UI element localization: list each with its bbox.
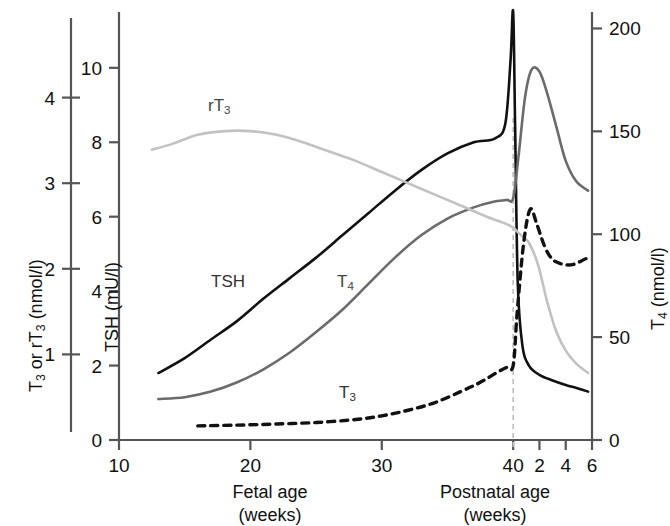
series-label-rt3: rT3: [208, 96, 230, 116]
ticklabel-x-fetal: 10: [108, 455, 129, 476]
ticklabel-right: 200: [609, 18, 641, 39]
axis-title-t3-rt3: T3 or rT3 (nmol/l): [26, 259, 48, 392]
series-label-t3: T3: [339, 383, 356, 403]
ticklabel-left-inner: 4: [91, 281, 102, 302]
series-label-t4: T4: [337, 272, 354, 292]
ticklabel-x-postnatal: 2: [534, 455, 545, 476]
ticklabel-left-inner: 8: [91, 132, 102, 153]
ticklabel-right: 100: [609, 224, 641, 245]
ticklabel-left-inner: 6: [91, 207, 102, 228]
ticklabel-left-outer: 4: [44, 88, 55, 109]
ticklabel-x-postnatal: 4: [560, 455, 571, 476]
xaxis-caption-fetal-line1: Fetal age: [180, 482, 360, 503]
xaxis-caption-postnatal-line1: Postnatal age: [400, 482, 590, 503]
series-curve-t3: [198, 209, 590, 426]
ticklabel-right: 50: [609, 327, 630, 348]
xaxis-caption-postnatal-line2: (weeks): [400, 505, 590, 526]
ticklabel-left-inner: 0: [91, 430, 102, 451]
axis-title-t4: T4 (nmol/l): [648, 247, 670, 330]
ticklabel-left-outer: 3: [44, 173, 55, 194]
series-label-tsh: TSH: [211, 272, 245, 292]
ticklabel-x-fetal: 40: [503, 455, 524, 476]
ticklabel-x-fetal: 30: [371, 455, 392, 476]
ticklabel-x-fetal: 20: [240, 455, 261, 476]
ticklabel-right: 0: [609, 430, 620, 451]
xaxis-caption-fetal-line2: (weeks): [180, 505, 360, 526]
ticklabel-left-inner: 2: [91, 356, 102, 377]
series-curve-tsh: [158, 10, 588, 392]
ticklabel-x-postnatal: 6: [587, 455, 598, 476]
axis-title-tsh: TSH (mU/l): [102, 262, 123, 352]
ticklabel-right: 150: [609, 121, 641, 142]
ticklabel-left-inner: 10: [81, 58, 102, 79]
